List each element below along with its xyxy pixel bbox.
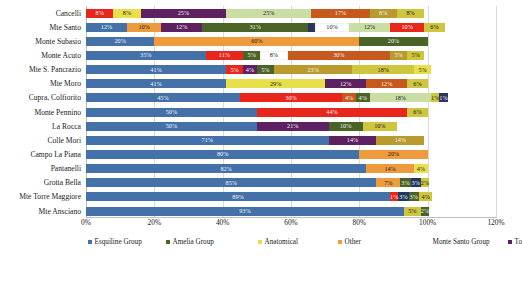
segment-value-label: 10% <box>374 123 385 129</box>
bar-segment[interactable]: 6% <box>424 23 445 32</box>
legend-item[interactable]: Anatomical <box>258 236 338 248</box>
segment-value-label: 5% <box>248 52 256 58</box>
bar-segment[interactable]: 3% <box>398 192 408 201</box>
bar-segment[interactable]: 7% <box>376 178 400 187</box>
bar-segment[interactable]: 4% <box>356 93 370 102</box>
bar-segment[interactable]: 12% <box>161 23 202 32</box>
bar-segment[interactable]: 60% <box>154 37 359 46</box>
bar-segment[interactable]: 10% <box>363 122 397 131</box>
legend-item[interactable]: Amelia Group <box>166 236 258 248</box>
stacked-bar[interactable]: 85%7%3%3%2% <box>86 178 496 187</box>
bar-segment[interactable]: 8% <box>113 9 140 18</box>
bar-segment[interactable]: 20% <box>359 150 427 159</box>
bar-segment[interactable]: 5% <box>257 65 274 74</box>
bar-segment[interactable]: 1% <box>390 192 398 201</box>
stacked-bar[interactable]: 8%8%25%25%17%8%8% <box>86 9 496 18</box>
stacked-bar[interactable]: 41%5%4%5%23%18%5% <box>86 65 496 74</box>
bar-segment[interactable]: 31% <box>202 23 308 32</box>
bar-segment[interactable]: 5% <box>390 51 407 60</box>
bar-segment[interactable]: 6% <box>407 79 428 88</box>
bar-segment[interactable]: 25% <box>141 9 226 18</box>
bar-segment[interactable]: 8% <box>260 51 287 60</box>
bar-segment[interactable]: 35% <box>86 51 206 60</box>
stacked-bar[interactable]: 41%29%12%12%6% <box>86 79 496 88</box>
stacked-bar[interactable]: 93%5%2% <box>86 207 496 216</box>
bar-segment[interactable]: 12% <box>366 79 407 88</box>
bar-segment[interactable]: 12% <box>325 79 366 88</box>
bar-segment[interactable]: 25% <box>226 9 311 18</box>
bar-segment[interactable]: 4% <box>342 93 356 102</box>
bar-segment[interactable]: 12% <box>86 23 127 32</box>
stacked-bar[interactable]: 71%14%14% <box>86 136 496 145</box>
bar-segment[interactable]: 3% <box>411 178 421 187</box>
bar-segment[interactable]: 85% <box>86 178 376 187</box>
legend-item[interactable]: Monte Santo Group <box>426 236 508 248</box>
bar-segment[interactable]: 2% <box>421 178 429 187</box>
bar-segment[interactable]: 18% <box>370 93 432 102</box>
bar-segment[interactable]: 5% <box>243 51 260 60</box>
bar-segment[interactable] <box>308 23 315 32</box>
bar-segment[interactable]: 5% <box>404 207 421 216</box>
stacked-bar[interactable]: 50%21%10%10% <box>86 122 496 131</box>
bar-segment[interactable]: 10% <box>127 23 161 32</box>
bar-segment[interactable]: 4% <box>243 65 257 74</box>
stacked-bar[interactable]: 80%20% <box>86 150 496 159</box>
bar-segment[interactable]: 18% <box>352 65 414 74</box>
bar-segment[interactable]: 12% <box>349 23 390 32</box>
bar-segment[interactable]: 8% <box>86 9 113 18</box>
bar-segment[interactable]: 1% <box>439 93 447 102</box>
bar-segment[interactable]: 6% <box>407 108 428 117</box>
bar-segment[interactable]: 41% <box>86 79 226 88</box>
legend-item[interactable]: Esquiline Group <box>88 236 166 248</box>
stacked-bar[interactable]: 89%1%3%3%4% <box>86 192 496 201</box>
bar-segment[interactable]: 14% <box>366 164 414 173</box>
bar-segment[interactable]: 17% <box>311 9 369 18</box>
stacked-bar[interactable]: 20%60%20% <box>86 37 496 46</box>
bar-segment[interactable]: 30% <box>288 51 391 60</box>
bar-segment[interactable]: 14% <box>376 136 424 145</box>
bar-segment[interactable]: 80% <box>86 150 359 159</box>
bar-segment[interactable]: 29% <box>226 79 325 88</box>
stacked-bar[interactable]: 45%30%4%4%18%1%1% <box>86 93 496 102</box>
segment-value-label: 10% <box>138 24 149 30</box>
bar-segment[interactable]: 5% <box>226 65 243 74</box>
bar-segment[interactable]: 14% <box>329 136 377 145</box>
legend-item[interactable]: Todi Group <box>508 236 522 248</box>
bar-segment[interactable]: 10% <box>390 23 424 32</box>
bar-segment[interactable]: 8% <box>397 9 424 18</box>
bar-segment[interactable]: 21% <box>257 122 329 131</box>
bar-segment[interactable]: 3% <box>409 192 419 201</box>
bar-segment[interactable]: 10% <box>329 122 363 131</box>
bar-segment[interactable]: 4% <box>414 164 428 173</box>
bar-segment[interactable]: 3% <box>400 178 410 187</box>
stacked-bar[interactable]: 35%11%5%8%30%5%5% <box>86 51 496 60</box>
bar-segment[interactable]: 2% <box>421 207 429 216</box>
bar-row: 41%5%4%5%23%18%5% <box>86 63 496 77</box>
stacked-bar[interactable]: 50%44%6% <box>86 108 496 117</box>
bar-segment[interactable]: 71% <box>86 136 329 145</box>
bar-segment[interactable]: 20% <box>86 37 154 46</box>
bar-row: 50%21%10%10% <box>86 119 496 133</box>
bar-segment[interactable]: 23% <box>274 65 353 74</box>
bar-segment[interactable]: 89% <box>86 192 390 201</box>
bar-segment[interactable]: 11% <box>206 51 244 60</box>
bar-segment[interactable]: 10% <box>315 23 349 32</box>
bar-segment[interactable]: 5% <box>414 65 431 74</box>
bar-segment[interactable]: 20% <box>359 37 427 46</box>
bar-segment[interactable]: 41% <box>86 65 226 74</box>
bar-segment[interactable]: 93% <box>86 207 404 216</box>
bar-segment[interactable]: 44% <box>257 108 407 117</box>
bar-segment[interactable]: 45% <box>86 93 240 102</box>
segment-value-label: 89% <box>232 194 243 200</box>
bar-segment[interactable]: 50% <box>86 122 257 131</box>
bar-segment[interactable]: 1% <box>431 93 439 102</box>
stacked-bar[interactable]: 82%14%4% <box>86 164 496 173</box>
bar-segment[interactable]: 5% <box>407 51 424 60</box>
bar-segment[interactable]: 82% <box>86 164 366 173</box>
bar-segment[interactable]: 50% <box>86 108 257 117</box>
bar-segment[interactable]: 30% <box>240 93 343 102</box>
legend-item[interactable]: Other <box>338 236 426 248</box>
stacked-bar[interactable]: 12%10%12%31%10%12%10%6% <box>86 23 496 32</box>
bar-segment[interactable]: 8% <box>370 9 397 18</box>
bar-segment[interactable]: 4% <box>419 192 433 201</box>
